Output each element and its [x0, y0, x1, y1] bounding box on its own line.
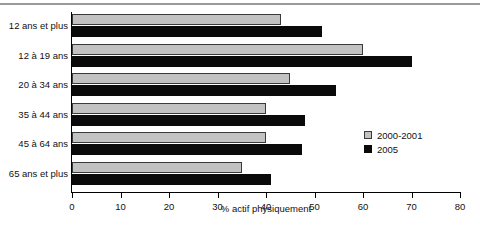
bar-series-2000-2001 — [72, 132, 266, 143]
bar-series-2000-2001 — [72, 103, 266, 114]
legend-swatch-2000-2001-icon — [364, 131, 372, 139]
bar-group — [72, 162, 460, 186]
category-label: 20 à 34 ans — [0, 80, 68, 90]
bar-series-2000-2001 — [72, 14, 281, 25]
legend-label: 2005 — [377, 144, 398, 155]
chart-figure: 12 ans et plus12 à 19 ans20 à 34 ans35 à… — [0, 0, 480, 229]
bar-series-2005 — [72, 174, 271, 185]
x-axis-tick — [363, 193, 364, 198]
top-divider-rule — [0, 3, 480, 5]
plot-area: 01020304050607080 — [72, 12, 460, 192]
bar-series-2005 — [72, 144, 302, 155]
bar-group — [72, 14, 460, 38]
category-label: 45 à 64 ans — [0, 139, 68, 149]
legend-swatch-2005-icon — [364, 145, 372, 153]
legend-label: 2000-2001 — [377, 130, 422, 141]
chart-legend: 2000-2001 2005 — [364, 128, 422, 156]
bar-group — [72, 103, 460, 127]
category-axis-labels: 12 ans et plus12 à 19 ans20 à 34 ans35 à… — [0, 12, 68, 192]
bar-series-2005 — [72, 26, 322, 37]
category-label: 65 ans et plus — [0, 169, 68, 179]
bar-group — [72, 44, 460, 68]
bar-series-2000-2001 — [72, 44, 363, 55]
x-axis-title: % actif physiquement — [72, 203, 460, 214]
x-axis-tick — [72, 193, 73, 198]
bar-group — [72, 73, 460, 97]
category-label: 12 ans et plus — [0, 21, 68, 31]
bar-series-2000-2001 — [72, 162, 242, 173]
x-axis-tick — [218, 193, 219, 198]
legend-item: 2005 — [364, 142, 422, 156]
x-axis-tick — [169, 193, 170, 198]
bar-series-2000-2001 — [72, 73, 290, 84]
x-axis-tick — [315, 193, 316, 198]
x-axis-tick — [460, 193, 461, 198]
bar-series-2005 — [72, 85, 336, 96]
legend-item: 2000-2001 — [364, 128, 422, 142]
x-axis-tick — [412, 193, 413, 198]
bar-series-2005 — [72, 115, 305, 126]
x-axis-tick — [266, 193, 267, 198]
x-axis-tick — [121, 193, 122, 198]
category-label: 35 à 44 ans — [0, 110, 68, 120]
category-label: 12 à 19 ans — [0, 51, 68, 61]
bar-series-2005 — [72, 56, 412, 67]
